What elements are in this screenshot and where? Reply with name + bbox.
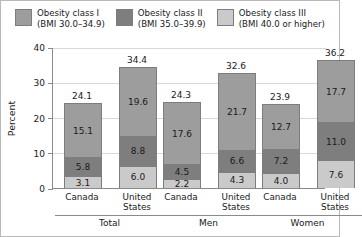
- bar-total-label: 36.2: [316, 48, 354, 58]
- bar-segment-class-ii: 11.0: [317, 122, 355, 161]
- bar-segment-class-i: 12.7: [262, 104, 300, 149]
- y-axis-tick-label: 20: [34, 114, 45, 124]
- legend-detail-class-iii: (BMI 40.0 or higher): [239, 19, 325, 29]
- plot-area: 01020304015.15.83.119.68.86.017.64.52.22…: [52, 48, 325, 189]
- x-axis-category-label: Canada: [56, 192, 108, 202]
- legend-label-class-iii: Obesity class III (BMI 40.0 or higher): [239, 8, 325, 29]
- y-axis-tick: [48, 118, 53, 119]
- bar-segment-class-iii: 6.0: [119, 167, 157, 188]
- bar-segment-class-iii: 4.0: [262, 174, 300, 188]
- legend-item-obesity-class-i: Obesity class I (BMI 30.0–34.9): [15, 8, 105, 29]
- bar-total-label: 24.1: [63, 91, 101, 101]
- y-axis-tick-label: 30: [34, 78, 45, 88]
- group-label-women: Women: [253, 218, 362, 228]
- bar-men-canada[interactable]: 17.64.52.2: [163, 102, 201, 188]
- gridline: [53, 48, 326, 49]
- bar-segment-class-i: 19.6: [119, 67, 157, 136]
- y-axis-tick: [48, 48, 53, 49]
- x-axis-category-label: Canada: [254, 192, 306, 202]
- group-rule: [253, 215, 362, 216]
- gridline: [53, 83, 326, 84]
- legend-swatch-class-ii: [116, 9, 133, 26]
- legend-item-obesity-class-iii: Obesity class III (BMI 40.0 or higher): [217, 8, 325, 29]
- legend-detail-class-ii: (BMI 35.0–39.9): [138, 19, 206, 29]
- legend-item-obesity-class-ii: Obesity class II (BMI 35.0–39.9): [116, 8, 206, 29]
- bar-segment-class-iii: 7.6: [317, 161, 355, 188]
- y-axis-tick: [48, 83, 53, 84]
- chart-legend: Obesity class I (BMI 30.0–34.9) Obesity …: [15, 8, 327, 29]
- legend-swatch-class-iii: [217, 9, 234, 26]
- bar-segment-class-i: 17.6: [163, 102, 201, 164]
- legend-detail-class-i: (BMI 30.0–34.9): [37, 19, 105, 29]
- bar-total-label: 32.6: [217, 61, 255, 71]
- bar-segment-class-iii: 4.3: [218, 173, 256, 188]
- bar-segment-class-iii: 3.1: [64, 177, 102, 188]
- bar-total-united-states[interactable]: 19.68.86.0: [119, 67, 157, 188]
- bar-total-canada[interactable]: 15.15.83.1: [64, 103, 102, 188]
- y-axis-tick: [48, 153, 53, 154]
- bar-women-canada[interactable]: 12.77.24.0: [262, 104, 300, 188]
- bar-women-united-states[interactable]: 17.711.07.6: [317, 60, 355, 188]
- y-axis-tick-label: 10: [34, 149, 45, 159]
- bar-segment-class-iii: 2.2: [163, 180, 201, 188]
- group-label-total: Total: [55, 218, 164, 228]
- group-rule: [154, 215, 263, 216]
- y-axis-tick-label: 0: [39, 184, 45, 194]
- group-rule: [55, 215, 164, 216]
- bar-segment-class-i: 21.7: [218, 73, 256, 149]
- bar-segment-class-ii: 6.6: [218, 150, 256, 173]
- bar-segment-class-ii: 7.2: [262, 149, 300, 174]
- legend-swatch-class-i: [15, 9, 32, 26]
- legend-name-class-iii: Obesity class III: [239, 8, 306, 18]
- y-axis-tick-label: 40: [34, 43, 45, 53]
- legend-label-class-i: Obesity class I (BMI 30.0–34.9): [37, 8, 105, 29]
- bar-segment-class-i: 17.7: [317, 60, 355, 122]
- bar-men-united-states[interactable]: 21.76.64.3: [218, 73, 256, 188]
- y-axis-tick: [48, 189, 53, 190]
- bar-total-label: 34.4: [118, 55, 156, 65]
- bar-segment-class-i: 15.1: [64, 103, 102, 156]
- x-axis-category-label: Canada: [155, 192, 207, 202]
- legend-name-class-ii: Obesity class II: [138, 8, 203, 18]
- bar-total-label: 23.9: [261, 92, 299, 102]
- group-label-men: Men: [154, 218, 263, 228]
- x-axis-category-label: United States: [309, 192, 361, 212]
- legend-name-class-i: Obesity class I: [37, 8, 99, 18]
- bar-segment-class-ii: 4.5: [163, 164, 201, 180]
- legend-label-class-ii: Obesity class II (BMI 35.0–39.9): [138, 8, 206, 29]
- y-axis-title: Percent: [5, 48, 19, 189]
- bar-total-label: 24.3: [162, 90, 200, 100]
- bar-segment-class-ii: 8.8: [119, 136, 157, 167]
- bar-segment-class-ii: 5.8: [64, 157, 102, 177]
